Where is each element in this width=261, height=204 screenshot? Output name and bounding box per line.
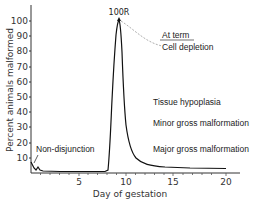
x-tick-5: 5 <box>76 177 82 187</box>
peak-label: 100R <box>109 8 130 17</box>
x-axis-title: Day of gestation <box>93 189 167 199</box>
y-tick-30: 30 <box>17 122 29 132</box>
major-gross-label: Major gross malformation <box>153 144 249 154</box>
y-tick-40: 40 <box>17 107 29 117</box>
y-tick-90: 90 <box>17 31 29 41</box>
y-tick-50: 50 <box>17 92 29 102</box>
x-tick-labels: 5 10 15 20 <box>76 177 232 187</box>
nondisjunction-arrow-icon <box>34 155 38 163</box>
tissue-hypoplasia-label: Tissue hypoplasia <box>153 97 221 107</box>
x-tick-10: 10 <box>120 177 132 187</box>
minor-gross-label: Minor gross malformation <box>153 118 249 128</box>
peak-arrow-icon <box>117 17 121 21</box>
x-tick-20: 20 <box>220 177 232 187</box>
y-tick-80: 80 <box>17 46 29 56</box>
y-tick-60: 60 <box>17 77 29 87</box>
y-tick-10: 10 <box>17 153 29 163</box>
y-tick-70: 70 <box>17 62 29 72</box>
nondisjunction-label: Non-disjunction <box>36 144 95 154</box>
y-axis-title: Percent animals malformed <box>5 28 15 152</box>
chart-canvas: 10 20 30 40 50 60 70 80 90 100 5 10 <box>0 0 261 204</box>
y-tick-20: 20 <box>17 138 29 148</box>
y-tick-100: 100 <box>11 16 28 26</box>
x-tick-15: 15 <box>167 177 178 187</box>
cell-depletion-label: Cell depletion <box>162 42 214 52</box>
dashed-connector <box>121 21 162 46</box>
at-term-label: At term <box>162 30 189 40</box>
